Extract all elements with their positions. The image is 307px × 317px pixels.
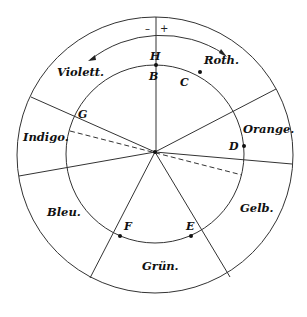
point-marker-d (242, 144, 246, 148)
sector-label-roth: Roth. (203, 53, 239, 67)
center-point (153, 150, 157, 154)
point-label-e: E (185, 220, 195, 233)
sector-label-violett: Violett. (57, 65, 104, 79)
point-label-d: D (228, 140, 239, 153)
point-label-c: C (180, 76, 189, 89)
point-label-h: H (149, 50, 161, 63)
point-marker-f (118, 234, 122, 238)
spoke-roth-orange (155, 89, 276, 152)
point-marker-e (189, 234, 193, 238)
sector-label-bleu: Bleu. (46, 205, 81, 219)
point-label-f: F (123, 220, 133, 233)
minus-sign: – (145, 23, 150, 34)
point-label-b: B (148, 70, 158, 83)
sector-label-gelb: Gelb. (240, 201, 274, 215)
sector-label-gruen: Grün. (142, 259, 179, 273)
plus-sign: + (160, 23, 168, 34)
point-label-g: G (78, 108, 87, 121)
color-wheel-diagram: – + Roth. Orange. Gelb. Grün. Bleu. Indi… (0, 0, 307, 317)
sector-label-orange: Orange. (243, 122, 294, 136)
sector-label-indigo: Indigo. (22, 130, 69, 144)
arrowhead-left-icon (88, 55, 96, 61)
point-marker-c (198, 70, 202, 74)
spoke-bleu-indigo (19, 152, 155, 176)
point-marker-h-b (154, 63, 158, 67)
